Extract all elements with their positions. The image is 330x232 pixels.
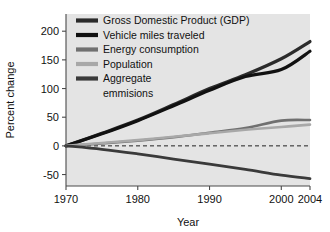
x-tick-label: 2004 [298, 193, 322, 205]
x-tick-label: 1970 [54, 193, 78, 205]
legend-label-2: Energy consumption [103, 43, 199, 55]
x-tick-label: 2000 [269, 193, 293, 205]
legend-label-1: Vehicle miles traveled [103, 29, 205, 41]
legend-label-0: Gross Domestic Product (GDP) [103, 14, 249, 26]
legend-label-3: Population [103, 58, 153, 70]
x-axis-title: Year [177, 216, 200, 228]
x-tick-label: 1990 [197, 193, 221, 205]
x-tick-label: 1980 [126, 193, 150, 205]
y-tick-label: 150 [41, 54, 59, 66]
legend-label-4: Aggregate [103, 72, 152, 84]
y-tick-label: 50 [47, 111, 59, 123]
y-tick-label: 200 [41, 25, 59, 37]
y-axis-title: Percent change [4, 61, 16, 138]
y-tick-label: -50 [43, 169, 59, 181]
y-tick-label: 0 [53, 140, 59, 152]
chart-figure: -5005010015020019701980199020002004 Perc… [0, 0, 330, 232]
percent-change-line-chart: -5005010015020019701980199020002004 Perc… [0, 0, 330, 232]
legend-label-5: emmisions [103, 87, 153, 99]
y-tick-label: 100 [41, 83, 59, 95]
